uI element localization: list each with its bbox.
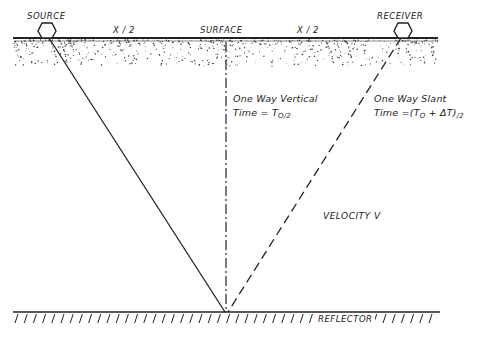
vertical-time-subscript: O/2	[278, 112, 291, 120]
reflector-label: REFLECTOR	[316, 314, 375, 324]
slant-time: Time =(TO + ΔT)/2	[374, 107, 464, 120]
slant-time-subscript: /2	[457, 112, 464, 120]
diagram-canvas	[0, 0, 481, 339]
receiver-hexagon-icon	[394, 23, 412, 38]
receiver-label: RECEIVER	[377, 11, 423, 21]
slant-time-delta: + ΔT)	[425, 107, 456, 118]
vertical-time: Time = TO/2	[233, 107, 291, 120]
half-offset-left-label: X / 2	[113, 25, 135, 35]
source-hexagon-icon	[38, 23, 56, 38]
vertical-time-text: Time = T	[233, 107, 278, 118]
slant-time-text: Time =(T	[374, 107, 420, 118]
source-ray	[49, 38, 225, 312]
receiver-ray	[228, 38, 401, 312]
surface-label: SURFACE	[200, 25, 243, 35]
vertical-title: One Way Vertical	[233, 93, 318, 104]
velocity-label: VELOCITY V	[323, 211, 381, 221]
half-offset-right-label: X / 2	[297, 25, 319, 35]
source-label: SOURCE	[27, 11, 66, 21]
slant-title: One Way Slant	[374, 93, 447, 104]
